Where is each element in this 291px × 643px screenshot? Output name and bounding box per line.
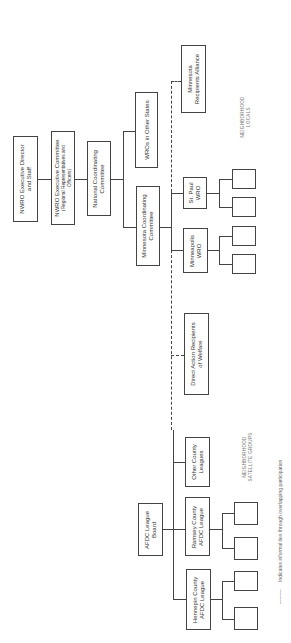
legend-text: Indicates informal ties through overlapp… <box>277 460 283 582</box>
node-st-paul-wro: St. PaulWRO <box>183 177 207 209</box>
node-afdc-league-board: AFDC LeagueBoard <box>138 503 163 556</box>
node-wros-in-other-states: WROs in Other States <box>135 92 158 168</box>
satellite-box <box>234 607 258 630</box>
local-box <box>232 226 256 246</box>
group-label-line: LOCALS <box>245 96 251 137</box>
node-hennepin-county-afdc-league: Hennepin CountyAFDC League <box>186 569 211 630</box>
node-national-coordinating-committee: National CoordinatingCommittee <box>87 141 111 216</box>
node-label: Minneapolis <box>189 234 196 266</box>
local-box <box>232 197 256 217</box>
node-label: AFDC League <box>198 505 205 548</box>
connector <box>171 193 183 194</box>
connector <box>222 513 223 548</box>
node-label: Board <box>151 510 158 548</box>
connector <box>38 179 51 180</box>
connector <box>222 513 234 514</box>
node-minnesota-coordinating-committee: Minnesota CoordinatingCommittee <box>136 186 160 266</box>
connector <box>111 179 123 180</box>
node-label: Committee <box>148 194 155 257</box>
informal-tie-line <box>171 81 172 192</box>
node-label: Recipients Alliance <box>194 54 201 104</box>
connector <box>163 529 173 530</box>
node-label: Direct Action Recipients <box>190 322 197 385</box>
node-label: Minnesota <box>187 54 194 104</box>
node-label: St. Paul <box>188 182 195 203</box>
connector <box>171 250 183 251</box>
node-label: AFDC League <box>199 576 206 622</box>
connector <box>211 599 222 600</box>
group-label-satellite-groups: NEIGHBORHOOD SATELLITE GROUPS <box>242 433 253 482</box>
node-label: WRO <box>195 182 202 203</box>
node-minnesota-recipients-alliance: MinnesotaRecipients Alliance <box>181 45 206 113</box>
node-label: (Regional Representatives and <box>61 139 67 216</box>
connector <box>173 599 186 600</box>
node-label: of Welfare <box>197 322 204 385</box>
informal-tie-line <box>171 250 172 430</box>
connector <box>222 581 223 619</box>
local-box <box>232 254 256 274</box>
connector <box>219 207 232 208</box>
node-label: Minnesota Coordinating <box>141 194 148 257</box>
node-label: National Coordinating <box>92 150 99 208</box>
connector <box>123 227 136 228</box>
connector <box>208 250 219 251</box>
informal-tie-line <box>171 355 184 356</box>
group-label-line: NEIGHBORHOOD <box>242 433 248 482</box>
connector <box>222 548 234 549</box>
connector <box>219 264 232 265</box>
connector <box>173 462 185 463</box>
connector <box>171 192 172 250</box>
connector <box>222 581 234 582</box>
connector <box>173 430 174 600</box>
informal-tie-line <box>171 81 181 82</box>
node-label: WROs in Other States <box>143 100 150 159</box>
connector <box>173 529 185 530</box>
node-label: Committee <box>99 150 106 208</box>
connector <box>219 236 232 237</box>
node-nwro-executive-committee: NWRO Executive Committee(Regional Repres… <box>51 131 75 225</box>
node-ramsey-county-afdc-league: Ramsey CountyAFDC League <box>185 497 210 556</box>
connector <box>219 236 220 264</box>
node-label: Ramsey County <box>191 505 198 548</box>
node-label: WRO <box>196 234 203 266</box>
group-label-line: NEIGHBORHOOD <box>240 96 246 137</box>
node-label: AFDC League <box>144 510 151 548</box>
connector <box>219 179 232 180</box>
local-box <box>232 169 256 189</box>
node-label: NWRO Executive Committee <box>54 139 61 216</box>
connector <box>123 131 135 132</box>
node-label: Officers) <box>67 139 73 216</box>
group-label-line: SATELLITE GROUPS <box>247 433 253 482</box>
node-label: NWRO Executive Director <box>19 144 26 213</box>
satellite-box <box>234 571 258 591</box>
connector <box>160 227 171 228</box>
connector <box>219 179 220 207</box>
node-label: Hennepin County <box>192 576 199 622</box>
group-label-neighborhood-locals: NEIGHBORHOOD LOCALS <box>240 96 251 137</box>
connector <box>207 193 219 194</box>
legend-dash-sample: --------- <box>277 589 283 604</box>
connector <box>222 619 234 620</box>
node-label: Leagues <box>198 444 205 480</box>
node-other-county-leagues: Other CountyLeagues <box>185 437 210 487</box>
satellite-box <box>234 502 258 525</box>
connector <box>210 529 222 530</box>
node-label: Other County <box>191 444 198 480</box>
node-direct-action-recipients-of-welfare: Direct Action Recipientsof Welfare <box>184 313 209 395</box>
node-minneapolis-wro: MinneapolisWRO <box>183 228 208 273</box>
satellite-box <box>234 537 258 560</box>
legend: --------- Indicates informal ties throug… <box>278 460 284 605</box>
node-nwro-executive-director: NWRO Executive Directorand Staff <box>13 136 38 222</box>
connector <box>75 179 87 180</box>
node-label: and Staff <box>26 144 33 213</box>
connector <box>123 131 124 228</box>
